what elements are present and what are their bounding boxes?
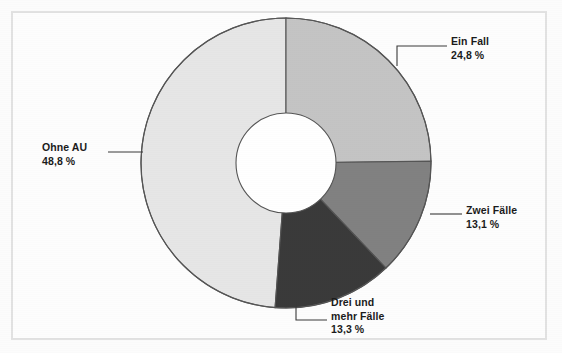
slice-label-zwei-faelle-name: Zwei Fälle: [466, 204, 517, 218]
slice-label-zwei-faelle-value: 13,1 %: [466, 218, 517, 232]
donut-center-hole: [236, 113, 336, 213]
slice-label-drei-mehr-faelle-value: 13,3 %: [331, 323, 385, 337]
slice-label-ein-fall-value: 24,8 %: [451, 49, 489, 63]
leader-line-ein-fall: [397, 46, 447, 66]
chart-figure: Ein Fall 24,8 % Zwei Fälle 13,1 % Drei u…: [0, 0, 562, 353]
slice-label-drei-mehr-faelle-name-2: mehr Fälle: [331, 310, 385, 324]
slice-label-zwei-faelle: Zwei Fälle 13,1 %: [466, 204, 517, 231]
slice-label-drei-mehr-faelle-name-1: Drei und: [331, 296, 385, 310]
slice-label-ohne-au-value: 48,8 %: [42, 155, 87, 169]
slice-label-ein-fall-name: Ein Fall: [451, 35, 489, 49]
slice-label-drei-mehr-faelle: Drei und mehr Fälle 13,3 %: [331, 296, 385, 337]
slice-label-ohne-au-name: Ohne AU: [42, 141, 87, 155]
slice-label-ohne-au: Ohne AU 48,8 %: [42, 141, 87, 168]
slice-label-ein-fall: Ein Fall 24,8 %: [451, 35, 489, 62]
